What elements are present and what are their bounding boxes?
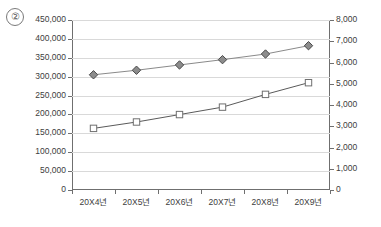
right-tick xyxy=(330,126,334,127)
series-diamond-marker xyxy=(89,71,97,79)
index-marker: ② xyxy=(6,8,24,26)
left-axis-label: 200,000 xyxy=(35,109,66,118)
left-axis-label: 250,000 xyxy=(35,91,66,100)
series-layer xyxy=(72,20,330,190)
x-tick xyxy=(72,190,73,194)
left-axis-label: 0 xyxy=(61,185,66,194)
left-axis-label: 100,000 xyxy=(35,147,66,156)
right-tick xyxy=(330,20,334,21)
right-axis-label: 5,000 xyxy=(336,79,357,88)
right-tick xyxy=(330,169,334,170)
right-tick xyxy=(330,84,334,85)
x-axis-label: 20X5년 xyxy=(123,198,151,207)
series-diamond-marker xyxy=(218,55,226,63)
x-tick xyxy=(115,190,116,194)
right-axis-label: 2,000 xyxy=(336,143,357,152)
plot-area: 050,000100,000150,000200,000250,000300,0… xyxy=(72,20,330,190)
x-tick xyxy=(330,190,331,194)
right-axis-label: 0 xyxy=(336,185,341,194)
x-tick xyxy=(287,190,288,194)
left-axis-label: 400,000 xyxy=(35,34,66,43)
right-axis-label: 4,000 xyxy=(336,100,357,109)
x-tick xyxy=(244,190,245,194)
right-tick xyxy=(330,63,334,64)
series-diamond-marker xyxy=(304,41,312,49)
series-square-marker xyxy=(305,79,311,85)
series-square-marker xyxy=(176,111,182,117)
series-diamond-marker xyxy=(261,50,269,58)
x-tick xyxy=(201,190,202,194)
right-axis-label: 6,000 xyxy=(336,58,357,67)
right-tick xyxy=(330,105,334,106)
left-axis-label: 450,000 xyxy=(35,15,66,24)
x-axis-label: 20X8년 xyxy=(252,198,280,207)
series-square-marker xyxy=(262,91,268,97)
series-diamond-marker xyxy=(132,66,140,74)
series-square-line xyxy=(94,83,309,129)
right-axis-label: 7,000 xyxy=(336,36,357,45)
right-tick xyxy=(330,41,334,42)
right-axis-label: 1,000 xyxy=(336,164,357,173)
series-square-marker xyxy=(90,125,96,131)
chart-figure: ② 050,000100,000150,000200,000250,000300… xyxy=(0,0,381,227)
series-diamond-line xyxy=(94,46,309,75)
right-tick xyxy=(330,148,334,149)
right-axis-label: 3,000 xyxy=(336,121,357,130)
right-axis-label: 8,000 xyxy=(336,15,357,24)
series-diamond-marker xyxy=(175,61,183,69)
x-axis-label: 20X4년 xyxy=(80,198,108,207)
x-axis-label: 20X7년 xyxy=(209,198,237,207)
left-axis-label: 300,000 xyxy=(35,72,66,81)
left-axis-label: 350,000 xyxy=(35,53,66,62)
series-square-marker xyxy=(133,119,139,125)
x-axis-label: 20X6년 xyxy=(166,198,194,207)
left-axis-label: 50,000 xyxy=(40,166,66,175)
x-axis-label: 20X9년 xyxy=(295,198,323,207)
left-axis-label: 150,000 xyxy=(35,128,66,137)
series-square-marker xyxy=(219,104,225,110)
x-tick xyxy=(158,190,159,194)
